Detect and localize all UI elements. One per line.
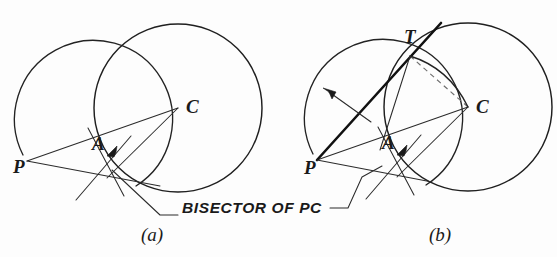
panel-b-line-c-to-arc: [397, 107, 468, 177]
panel-a-line-c-to-arc: [107, 108, 178, 178]
panel-b-dashed-radius-tc: [410, 56, 468, 107]
panel-b-label-t: T: [404, 26, 417, 47]
panel-a-caption: (a): [141, 224, 163, 246]
panel-a-label-c: C: [186, 96, 199, 117]
panel-b-caption: (b): [429, 224, 451, 246]
panel-b: P A C T (b): [303, 23, 552, 246]
panel-b-arrowhead-icon: [397, 145, 407, 156]
panel-b-label-a: A: [381, 132, 395, 153]
panel-b-bisector-leader: [330, 166, 382, 208]
figure-root: P A C (a) BISECTOR OF PC: [0, 0, 557, 257]
panel-b-tangent-line: [317, 23, 441, 160]
panel-a-line-p-extend: [27, 161, 160, 186]
panel-a-arrowhead-icon: [107, 146, 117, 157]
panel-a-label-a: A: [91, 133, 105, 154]
construction-drawing: P A C (a) BISECTOR OF PC: [0, 0, 557, 257]
bisector-annotation: BISECTOR OF PC: [182, 199, 322, 216]
panel-b-label-c: C: [476, 96, 489, 117]
panel-a-label-p: P: [12, 156, 25, 177]
panel-b-line-p-extend: [317, 160, 432, 182]
panel-b-label-p: P: [303, 157, 316, 178]
panel-b-radius-leader-arrow-icon: [323, 88, 336, 99]
